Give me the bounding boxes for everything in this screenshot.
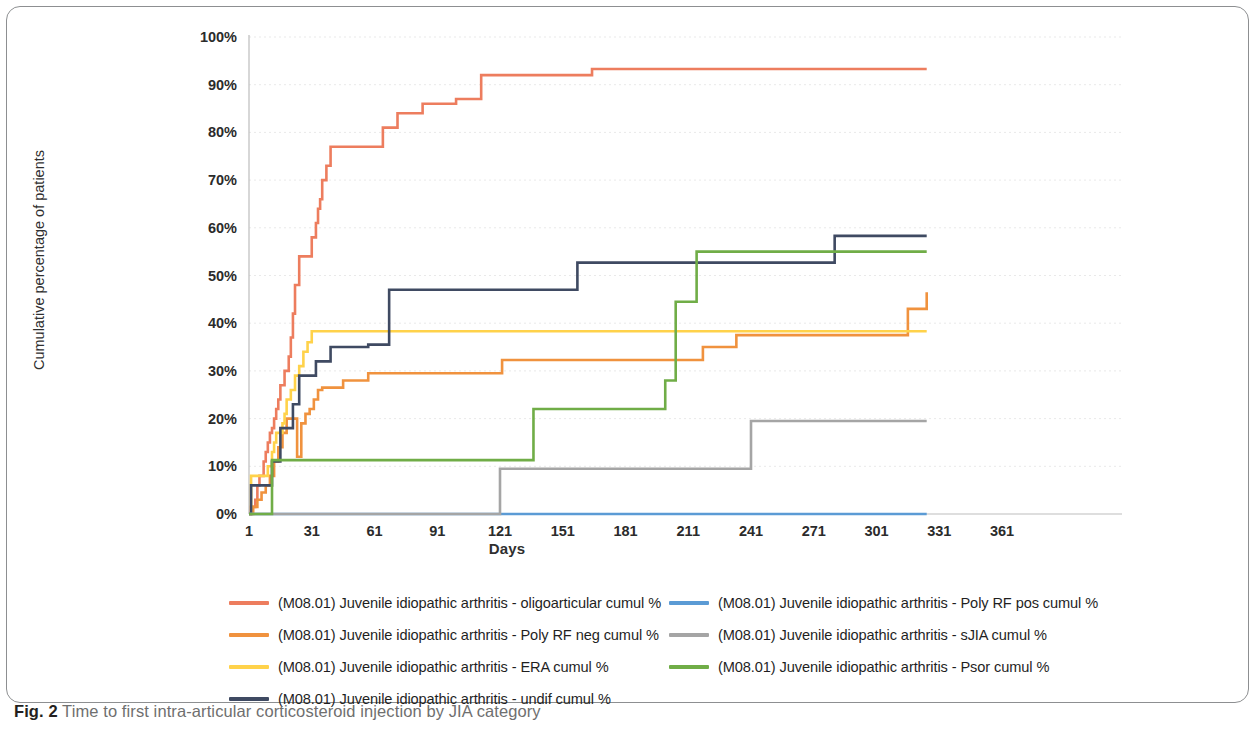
figure-caption-text: Time to first intra-articular corticoste… <box>58 702 541 720</box>
legend-item[interactable]: (M08.01) Juvenile idiopathic arthritis -… <box>229 627 659 643</box>
legend-color-swatch <box>229 633 269 637</box>
figure-caption: Fig. 2 Time to first intra-articular cor… <box>14 702 1214 728</box>
legend-color-swatch <box>229 697 269 701</box>
legend-color-swatch <box>229 665 269 669</box>
legend-item[interactable]: (M08.01) Juvenile idiopathic arthritis -… <box>229 659 609 675</box>
legend-color-swatch <box>669 633 709 637</box>
legend-label: (M08.01) Juvenile idiopathic arthritis -… <box>718 659 1049 675</box>
legend-item[interactable]: (M08.01) Juvenile idiopathic arthritis -… <box>669 595 1098 611</box>
plot-area <box>7 7 1250 582</box>
legend-item[interactable]: (M08.01) Juvenile idiopathic arthritis -… <box>669 627 1047 643</box>
series-line-0 <box>249 69 927 514</box>
figure-page: Cumulative percentage of patients Days 0… <box>0 0 1259 732</box>
figure-frame: Cumulative percentage of patients Days 0… <box>6 6 1249 703</box>
legend-label: (M08.01) Juvenile idiopathic arthritis -… <box>718 595 1098 611</box>
legend-color-swatch <box>229 601 269 605</box>
series-line-3 <box>249 236 927 514</box>
legend-color-swatch <box>669 665 709 669</box>
legend-label: (M08.01) Juvenile idiopathic arthritis -… <box>278 595 661 611</box>
series-line-6 <box>249 252 927 514</box>
series-line-5 <box>249 421 927 514</box>
line-chart: Cumulative percentage of patients Days 0… <box>7 7 1250 582</box>
legend-item[interactable]: (M08.01) Juvenile idiopathic arthritis -… <box>229 595 661 611</box>
legend-label: (M08.01) Juvenile idiopathic arthritis -… <box>278 659 609 675</box>
chart-legend: (M08.01) Juvenile idiopathic arthritis -… <box>7 585 1250 693</box>
legend-item[interactable]: (M08.01) Juvenile idiopathic arthritis -… <box>669 659 1049 675</box>
series-line-1 <box>249 292 927 514</box>
legend-label: (M08.01) Juvenile idiopathic arthritis -… <box>718 627 1047 643</box>
legend-label: (M08.01) Juvenile idiopathic arthritis -… <box>278 627 659 643</box>
figure-number: Fig. 2 <box>14 702 58 720</box>
legend-color-swatch <box>669 601 709 605</box>
